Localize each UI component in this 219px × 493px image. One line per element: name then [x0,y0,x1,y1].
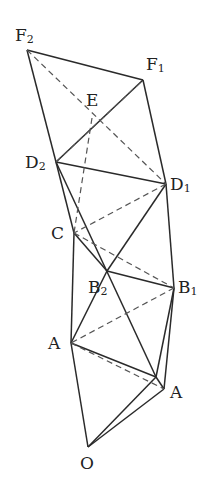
point-letter: C [51,223,64,243]
dashed-edge-b1-a2 [71,288,174,343]
geometric-diagram [0,0,219,493]
point-letter: D [170,174,184,194]
point-label-a1: A [170,384,182,401]
solid-edge-b1-p [156,288,174,377]
point-subscript: 1 [191,285,198,298]
solid-edge-f1-d1 [143,80,166,184]
point-label-b2: B2 [88,279,108,297]
solid-edge-d1-b1 [166,184,174,288]
point-letter: O [80,453,94,473]
solid-edge-d2-d1 [56,162,166,184]
solid-edge-f2-d2 [27,50,56,162]
point-subscript: 2 [101,285,108,298]
point-label-b1: B1 [178,279,198,297]
point-label-o: O [80,455,94,472]
point-letter: A [170,382,182,402]
point-label-a2: A [48,335,60,352]
point-letter: B [178,277,191,297]
point-letter: F [146,54,158,74]
solid-edge-f2-f1 [27,50,143,80]
point-letter: A [48,333,60,353]
point-label-c: C [51,225,64,242]
point-letter: F [15,25,27,45]
solid-edge-b2-b1 [107,271,174,288]
point-subscript: 1 [158,62,165,75]
point-letter: E [86,90,98,110]
point-label-d2: D2 [25,154,46,172]
dashed-edge-e-c [74,118,92,233]
point-subscript: 2 [39,160,46,173]
solid-edge-b1-a1 [164,288,174,389]
dashed-edge-d1-c [74,184,166,233]
point-label-d1: D1 [170,176,191,194]
point-subscript: 1 [184,182,191,195]
solid-edge-a2-o [71,343,88,447]
solid-edge-o-a1 [88,389,164,447]
point-label-f1: F1 [146,56,165,74]
solid-edges [27,50,174,447]
point-label-f2: F2 [15,27,34,45]
point-label-e: E [86,92,98,109]
solid-edge-d1-b2 [107,184,166,271]
solid-edge-p-a1 [156,377,164,389]
point-letter: B [88,277,101,297]
solid-edge-o-p [88,377,156,447]
point-letter: D [25,152,39,172]
point-subscript: 2 [27,33,34,46]
solid-edge-c-a2 [71,233,74,343]
solid-edge-c-b2 [74,233,107,271]
